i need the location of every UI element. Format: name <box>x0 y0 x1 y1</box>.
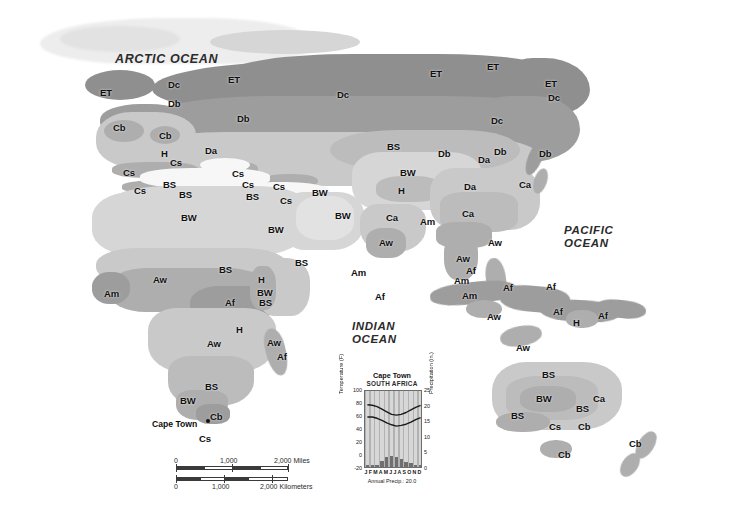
climate-code-bs: BS <box>205 382 218 392</box>
climate-code-db: Db <box>438 149 450 159</box>
climograph-temperature-lines <box>365 391 422 468</box>
climograph-month-letter: A <box>398 469 402 475</box>
climate-code-cs: Cs <box>273 182 285 192</box>
climate-code-et: ET <box>487 62 499 72</box>
climograph-y2tick: 20 <box>424 403 430 409</box>
climate-code-bs: BS <box>576 404 589 414</box>
climate-code-am: Am <box>351 268 366 278</box>
climograph-month-letter: O <box>407 469 411 475</box>
climate-code-af: Af <box>375 292 385 302</box>
climograph-month-letter: A <box>379 469 383 475</box>
climate-code-h: H <box>258 275 265 285</box>
climate-code-af: Af <box>277 352 287 362</box>
climate-code-aw: Aw <box>267 338 281 348</box>
climograph-month-letter: S <box>402 469 405 475</box>
climate-code-bw: BW <box>536 394 552 404</box>
climate-code-af: Af <box>598 311 608 321</box>
climate-code-aw: Aw <box>379 238 393 248</box>
scale-bar: 0 1,000 2,000 Miles 0 1,000 2,000 Kilome… <box>176 458 306 492</box>
climate-code-cb: Cb <box>578 422 590 432</box>
climate-code-h: H <box>161 149 168 159</box>
climate-code-cs: Cs <box>170 158 182 168</box>
climate-code-bs: BS <box>219 265 232 275</box>
climograph-ytick: 0 <box>350 452 362 458</box>
climate-code-am: Am <box>454 276 469 286</box>
climograph-month-letter: M <box>384 469 388 475</box>
climate-code-aw: Aw <box>488 238 502 248</box>
climate-code-aw: Aw <box>516 343 530 353</box>
climate-code-bw: BW <box>180 396 196 406</box>
scale-km-2000: 2,000 Kilometers <box>260 483 313 490</box>
climate-code-aw: Aw <box>207 339 221 349</box>
climate-code-cb: Cb <box>558 450 570 460</box>
climograph-month-letter: J <box>365 469 368 475</box>
climograph-month-letter: F <box>369 469 372 475</box>
climate-code-bw: BW <box>268 225 284 235</box>
climate-code-db: Db <box>168 99 180 109</box>
climograph-month-letter: N <box>412 469 416 475</box>
climate-code-bs: BS <box>259 298 272 308</box>
climate-code-da: Da <box>205 146 217 156</box>
climograph-temp-line-0 <box>367 405 420 415</box>
climograph-y2tick: 10 <box>424 434 430 440</box>
climate-map-figure: ETDcDbETDbDcETETETDcCbCbHCsDaCsCsBSCsCsB… <box>0 0 735 521</box>
climate-code-af: Af <box>546 282 556 292</box>
climate-code-cs: Cs <box>280 196 292 206</box>
climograph-month-letter: D <box>417 469 421 475</box>
climate-code-cs: Cs <box>123 168 135 178</box>
pacific-ocean-line1: PACIFIC <box>564 224 613 237</box>
climate-code-bs: BS <box>295 258 308 268</box>
climograph-ytick: 20 <box>350 439 362 445</box>
climate-code-af: Af <box>225 298 235 308</box>
climograph-inset: Cape Town SOUTH AFRICA -20020406080100 0… <box>340 372 444 490</box>
city-label-cape-town: Cape Town <box>152 419 197 429</box>
climate-code-cs: Cs <box>134 186 146 196</box>
climate-code-cb: Cb <box>159 131 171 141</box>
climate-code-bs: BS <box>511 411 524 421</box>
climate-code-bw: BW <box>400 168 416 178</box>
climate-code-db: Db <box>237 114 249 124</box>
climate-code-bw: BW <box>312 188 328 198</box>
climate-code-cs: Cs <box>242 180 254 190</box>
climate-code-ca: Ca <box>462 209 474 219</box>
climograph-ytick: 100 <box>350 387 362 393</box>
climate-code-aw: Aw <box>487 312 501 322</box>
climate-code-ca: Ca <box>519 180 531 190</box>
climate-code-cs: Cs <box>232 169 244 179</box>
climate-code-bw: BW <box>181 213 197 223</box>
climate-code-bs: BS <box>179 190 192 200</box>
climate-code-dc: Dc <box>548 93 560 103</box>
climate-code-am: Am <box>104 289 119 299</box>
climate-code-bs: BS <box>163 180 176 190</box>
climate-code-bs: BS <box>246 192 259 202</box>
climograph-ytick: -20 <box>350 465 362 471</box>
climate-code-cs: Cs <box>549 422 561 432</box>
climate-code-et: ET <box>100 88 112 98</box>
climate-code-h: H <box>398 186 405 196</box>
climograph-ytick: 80 <box>350 400 362 406</box>
climograph-annual-precip: Annual Precip.: 20.0 <box>340 478 444 484</box>
climograph-ytick: 40 <box>350 426 362 432</box>
climate-code-af: Af <box>503 283 513 293</box>
climate-code-af: Af <box>553 307 563 317</box>
climograph-y2tick: 5 <box>424 449 427 455</box>
climograph-y-axis-title: Temperature (F) <box>338 322 344 394</box>
climograph-y2-axis-title: Precipitation (in.) <box>428 322 434 394</box>
climate-code-dc: Dc <box>491 116 503 126</box>
climate-code-et: ET <box>545 79 557 89</box>
climograph-y2tick: 0 <box>424 465 427 471</box>
climograph-month-letter: J <box>393 469 396 475</box>
climate-code-bs: BS <box>542 370 555 380</box>
city-dot-cape-town <box>206 419 210 423</box>
climate-code-dc: Dc <box>337 90 349 100</box>
climate-code-ca: Ca <box>593 394 605 404</box>
climate-code-et: ET <box>228 75 240 85</box>
indian-ocean-line1: INDIAN <box>352 320 395 333</box>
climate-code-ca: Ca <box>386 213 398 223</box>
climate-code-db: Db <box>494 147 506 157</box>
climate-code-bw: BW <box>335 211 351 221</box>
climate-code-h: H <box>573 318 580 328</box>
climate-code-da: Da <box>478 155 490 165</box>
climate-code-cs: Cs <box>199 434 211 444</box>
climate-code-et: ET <box>430 69 442 79</box>
